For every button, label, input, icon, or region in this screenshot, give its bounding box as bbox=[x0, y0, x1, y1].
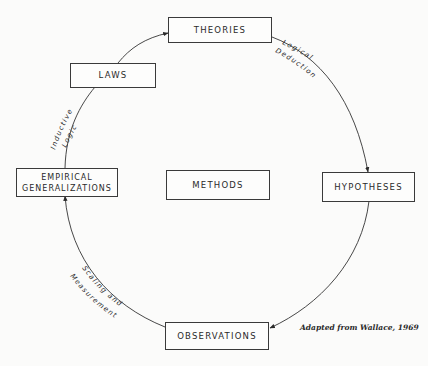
node-hypotheses: HYPOTHESES bbox=[322, 172, 415, 202]
source-caption: Adapted from Wallace, 1969 bbox=[300, 323, 419, 332]
node-laws: LAWS bbox=[70, 63, 156, 88]
arc-observations-to-empirical bbox=[65, 196, 165, 327]
arc-laws-to-theories bbox=[118, 33, 168, 63]
node-empirical-label-line1: EMPIRICAL bbox=[41, 172, 93, 183]
node-laws-label: LAWS bbox=[99, 70, 128, 81]
node-observations-label: OBSERVATIONS bbox=[177, 331, 257, 342]
node-theories-label: THEORIES bbox=[194, 25, 246, 36]
node-observations: OBSERVATIONS bbox=[165, 322, 269, 350]
node-empirical-label-line2: GENERALIZATIONS bbox=[22, 183, 112, 194]
node-empirical-generalizations: EMPIRICAL GENERALIZATIONS bbox=[16, 168, 118, 197]
node-hypotheses-label: HYPOTHESES bbox=[334, 182, 403, 193]
node-theories: THEORIES bbox=[168, 17, 272, 43]
node-methods-label: METHODS bbox=[192, 180, 243, 191]
node-methods: METHODS bbox=[166, 170, 270, 200]
arc-hypotheses-to-observations bbox=[270, 201, 369, 328]
